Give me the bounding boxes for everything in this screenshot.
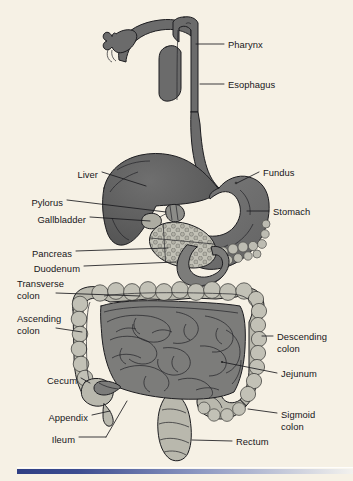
digestive-system-illustration: Liver Pylorus Gallbladder Pancreas Duode…	[0, 0, 353, 481]
label-pancreas: Pancreas	[32, 248, 72, 259]
label-transverse-colon-line2: colon	[17, 290, 40, 301]
bottom-rule	[17, 469, 353, 474]
label-descending-colon-line2: colon	[277, 343, 300, 354]
label-rectum: Rectum	[236, 436, 269, 447]
label-ascending-colon-line1: Ascending	[17, 313, 61, 324]
label-pylorus: Pylorus	[31, 197, 63, 208]
label-transverse-colon-line1: Transverse	[17, 278, 64, 289]
label-liver: Liver	[77, 169, 98, 180]
bottom-rule-highlight	[17, 467, 353, 468]
label-fundus: Fundus	[263, 167, 295, 178]
label-stomach: Stomach	[273, 206, 310, 217]
label-sigmoid-colon-line1: Sigmoid	[281, 409, 315, 420]
label-pharynx: Pharynx	[228, 39, 263, 50]
label-duodenum: Duodenum	[34, 263, 80, 274]
digestive-system-figure: Liver Pylorus Gallbladder Pancreas Duode…	[0, 0, 353, 481]
small-intestine-organ	[94, 301, 245, 400]
label-ileum: Ileum	[52, 434, 75, 445]
label-jejunum: Jejunum	[281, 368, 317, 379]
pylorus-region	[166, 204, 185, 221]
label-esophagus: Esophagus	[228, 79, 276, 90]
label-gallbladder: Gallbladder	[38, 214, 87, 225]
label-descending-colon-line1: Descending	[277, 331, 327, 342]
label-cecum: Cecum	[47, 375, 77, 386]
label-sigmoid-colon-line2: colon	[281, 421, 304, 432]
label-ascending-colon-line2: colon	[17, 325, 40, 336]
label-appendix: Appendix	[49, 412, 89, 423]
